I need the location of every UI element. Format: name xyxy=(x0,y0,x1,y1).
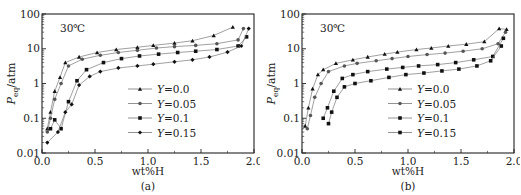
data-point-marker xyxy=(335,96,339,100)
temperature-annotation: 30℃ xyxy=(60,22,85,34)
data-point-marker xyxy=(454,61,458,65)
y-tick-label: 1 xyxy=(293,77,300,89)
data-point-marker xyxy=(340,77,344,81)
data-point-marker xyxy=(313,96,317,100)
data-point-marker xyxy=(67,64,71,68)
x-tick-label: 1.5 xyxy=(453,155,470,167)
data-point-marker xyxy=(480,47,484,51)
data-point-marker xyxy=(417,64,421,68)
data-point-marker xyxy=(443,51,447,55)
series-y0.0 xyxy=(303,27,509,128)
data-point-marker xyxy=(98,70,102,74)
legend-item: Y=0.15 xyxy=(128,127,196,139)
data-point-marker xyxy=(374,59,378,63)
y-tick-label: 10 xyxy=(27,42,40,54)
data-point-marker xyxy=(212,33,216,37)
data-point-marker xyxy=(406,55,410,59)
legend-marker-icon xyxy=(398,116,402,120)
data-point-marker xyxy=(236,38,240,42)
series-line xyxy=(305,29,506,126)
data-point-marker xyxy=(306,106,310,110)
y-axis-label: Peq/atm xyxy=(265,62,280,105)
y-axis-label: Peq/atm xyxy=(5,62,20,105)
data-point-marker xyxy=(75,79,79,83)
data-point-marker xyxy=(326,106,330,110)
data-point-marker xyxy=(231,25,235,29)
data-point-marker xyxy=(385,67,389,71)
data-point-marker xyxy=(457,67,461,71)
legend-label: Y=0.0 xyxy=(417,83,449,95)
data-point-marker xyxy=(387,76,391,80)
legend-item: Y=0.05 xyxy=(388,98,456,110)
data-point-marker xyxy=(351,73,355,77)
data-point-marker xyxy=(155,46,159,50)
data-point-marker xyxy=(330,110,334,114)
data-point-marker xyxy=(58,75,62,79)
legend-item: Y=0.0 xyxy=(128,83,189,95)
y-tick-label: 100 xyxy=(20,8,40,20)
data-point-marker xyxy=(136,49,140,53)
series-y0.1 xyxy=(49,35,249,130)
legend-label: Y=0.1 xyxy=(157,112,189,124)
data-point-marker xyxy=(59,82,63,86)
data-point-marker xyxy=(67,100,71,104)
series-y0.05 xyxy=(306,30,508,130)
x-tick-label: 0.0 xyxy=(294,155,311,167)
legend-label: Y=0.05 xyxy=(157,98,196,110)
legend-label: Y=0.15 xyxy=(417,127,456,139)
data-point-marker xyxy=(85,68,89,72)
data-point-marker xyxy=(332,89,336,93)
x-axis-label: wt%H xyxy=(392,165,424,177)
legend-label: Y=0.15 xyxy=(157,127,196,139)
data-point-marker xyxy=(309,114,313,118)
series-y0.0 xyxy=(45,25,235,130)
data-point-marker xyxy=(46,130,50,134)
legend-label: Y=0.1 xyxy=(417,112,449,124)
data-point-marker xyxy=(207,55,211,59)
legend-item: Y=0.15 xyxy=(388,127,456,139)
legend-marker-icon xyxy=(138,102,142,106)
legend-item: Y=0.1 xyxy=(128,112,189,124)
data-point-marker xyxy=(49,127,53,131)
legend-label: Y=0.05 xyxy=(417,98,456,110)
data-point-marker xyxy=(321,116,325,120)
chart-svg: 0.010.11101000.00.51.01.52.0wt%H(a)Peq/a… xyxy=(0,0,260,195)
data-point-marker xyxy=(80,57,84,61)
data-point-marker xyxy=(49,116,53,120)
data-point-marker xyxy=(53,89,57,93)
plot-area xyxy=(303,27,509,131)
data-point-marker xyxy=(475,64,479,68)
series-y0.15 xyxy=(45,27,251,145)
data-point-marker xyxy=(489,59,493,63)
legend-marker-icon xyxy=(398,102,402,106)
data-point-marker xyxy=(436,63,440,67)
x-tick-label: 2.0 xyxy=(246,155,260,167)
data-point-marker xyxy=(404,73,408,77)
data-point-marker xyxy=(53,98,57,102)
data-point-marker xyxy=(53,118,57,122)
data-point-marker xyxy=(225,50,229,54)
y-tick-label: 100 xyxy=(280,8,300,20)
data-point-marker xyxy=(366,70,370,74)
data-point-marker xyxy=(247,27,251,31)
data-point-marker xyxy=(120,57,124,61)
data-point-marker xyxy=(215,48,219,52)
data-point-marker xyxy=(369,79,373,83)
y-tick-label: 1 xyxy=(33,77,40,89)
data-point-marker xyxy=(504,30,508,34)
x-axis-label: wt%H xyxy=(132,165,164,177)
data-point-marker xyxy=(321,68,325,72)
legend-marker-icon xyxy=(138,130,142,134)
data-point-marker xyxy=(327,122,331,126)
legend: Y=0.0Y=0.05Y=0.1Y=0.15 xyxy=(128,83,196,139)
data-point-marker xyxy=(306,127,310,131)
data-point-marker xyxy=(194,49,198,53)
legend-item: Y=0.1 xyxy=(388,112,449,124)
legend-item: Y=0.0 xyxy=(388,83,449,95)
series-y0.15 xyxy=(327,44,503,125)
x-tick-label: 0.0 xyxy=(34,155,51,167)
chart-svg: 0.010.11101000.00.51.01.52.0wt%H(b)Peq/a… xyxy=(260,0,520,195)
series-line xyxy=(323,38,503,118)
panel-label: (a) xyxy=(141,180,155,192)
data-point-marker xyxy=(176,51,180,55)
